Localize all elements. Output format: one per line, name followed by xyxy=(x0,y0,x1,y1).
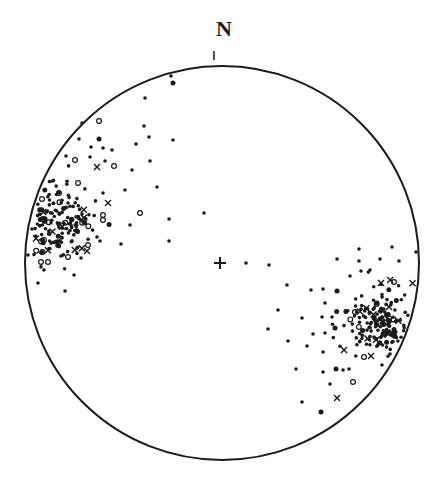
dot-point xyxy=(79,256,83,260)
open-circle-point xyxy=(101,218,106,223)
dot-point xyxy=(48,203,52,207)
dot-point xyxy=(42,268,46,272)
dot-point xyxy=(92,214,96,218)
dot-point xyxy=(392,335,396,339)
dot-point xyxy=(334,309,339,314)
dot-point xyxy=(88,155,92,159)
dot-point xyxy=(300,316,304,320)
dot-point xyxy=(60,241,64,245)
dot-point xyxy=(374,322,378,326)
dot-point xyxy=(64,154,68,158)
dot-point xyxy=(397,284,401,288)
dot-point xyxy=(56,191,60,195)
dot-point xyxy=(382,307,386,311)
dot-point xyxy=(63,289,67,293)
dot-point xyxy=(369,329,373,333)
dot-point xyxy=(402,324,406,328)
dot-point xyxy=(41,240,46,245)
dot-point xyxy=(311,332,315,336)
dot-point xyxy=(406,314,410,318)
dot-point xyxy=(379,310,383,314)
dot-point xyxy=(40,233,44,237)
dot-point xyxy=(323,301,327,305)
dot-point xyxy=(331,323,335,327)
dot-point xyxy=(338,345,342,349)
dot-point xyxy=(65,183,69,187)
dot-point xyxy=(73,201,77,205)
dot-point xyxy=(103,159,107,163)
dot-point xyxy=(68,204,72,208)
dot-point xyxy=(70,226,74,230)
dot-point xyxy=(391,340,395,344)
dot-point xyxy=(57,245,61,249)
dot-point xyxy=(51,202,55,206)
dot-point xyxy=(374,301,379,306)
dot-point xyxy=(48,180,52,184)
dot-point xyxy=(358,316,362,320)
open-circle-point xyxy=(112,164,117,169)
dot-point xyxy=(134,142,138,146)
dot-point xyxy=(67,193,71,197)
dot-point xyxy=(357,247,361,251)
open-circle-point xyxy=(40,197,45,202)
dot-point xyxy=(54,209,58,213)
dot-point xyxy=(77,137,81,141)
dot-point xyxy=(351,322,355,326)
dot-point xyxy=(342,324,346,328)
dot-point xyxy=(148,159,152,163)
dot-point xyxy=(323,331,327,335)
dot-point xyxy=(77,217,81,221)
open-circle-point xyxy=(86,224,91,229)
open-circle-point xyxy=(357,325,362,330)
dot-point xyxy=(348,274,352,278)
dot-point xyxy=(67,222,71,226)
dot-point xyxy=(101,191,105,195)
open-circle-point xyxy=(39,260,44,265)
dot-point xyxy=(56,234,61,239)
dot-point xyxy=(50,211,54,215)
dot-point xyxy=(341,368,345,372)
dot-point xyxy=(374,325,378,329)
open-circle-point xyxy=(66,255,71,260)
dot-point xyxy=(66,250,70,254)
dot-point xyxy=(83,187,87,191)
dot-point xyxy=(42,187,47,192)
dot-point xyxy=(267,263,271,267)
dot-point xyxy=(347,367,351,371)
dot-point xyxy=(359,269,363,273)
dot-point xyxy=(319,410,324,415)
dot-point xyxy=(365,321,369,325)
open-circle-point xyxy=(138,211,143,216)
dot-point xyxy=(39,207,44,212)
dot-point xyxy=(388,324,392,328)
dot-point xyxy=(378,257,382,261)
dot-point xyxy=(381,343,385,347)
dot-point xyxy=(36,203,40,207)
dot-point xyxy=(384,303,388,307)
dot-point xyxy=(80,121,84,125)
dot-point xyxy=(364,307,368,311)
dot-point xyxy=(47,232,51,236)
dot-point xyxy=(361,334,365,338)
dot-point xyxy=(276,308,280,312)
dot-point xyxy=(72,233,76,237)
open-circle-point xyxy=(97,119,102,124)
dot-point xyxy=(147,135,151,139)
dot-point xyxy=(372,316,377,321)
dot-point xyxy=(355,310,359,314)
dot-point xyxy=(375,337,379,341)
dot-point xyxy=(68,229,72,233)
dot-point xyxy=(380,363,384,367)
dot-point xyxy=(365,343,369,347)
dot-point xyxy=(44,227,48,231)
dot-point xyxy=(384,340,389,345)
dot-point xyxy=(60,232,64,236)
dot-point xyxy=(54,184,58,188)
dot-point xyxy=(399,335,403,339)
dot-point xyxy=(26,253,30,257)
dot-point xyxy=(370,321,374,325)
dot-point xyxy=(372,285,376,289)
center-plus-icon xyxy=(214,257,226,269)
dot-point xyxy=(387,329,391,333)
dot-point xyxy=(47,247,51,251)
